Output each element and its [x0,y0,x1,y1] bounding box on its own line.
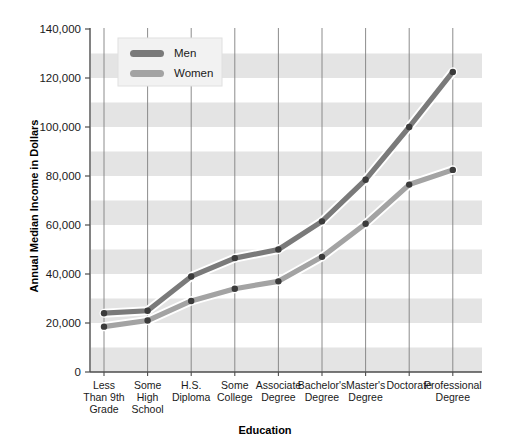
horizontal-band [91,348,482,373]
data-point-men-8 [450,69,456,75]
y-tick-label: 120,000 [39,72,81,84]
y-tick-label: 60,000 [46,219,81,231]
data-point-women-8 [450,167,456,173]
horizontal-band [91,201,482,226]
data-point-women-2 [188,298,194,304]
data-point-men-3 [232,255,238,261]
horizontal-band [91,152,482,177]
legend-swatch-men [130,50,164,57]
data-point-men-4 [275,246,281,252]
y-axis-title: Annual Median Income in Dollars [28,120,40,293]
chart-figure: 020,00040,00060,00080,000100,000120,0001… [0,0,520,442]
data-point-women-5 [319,254,325,260]
line-chart: 020,00040,00060,00080,000100,000120,0001… [0,0,520,442]
legend-swatch-women [130,70,164,77]
data-point-women-0 [101,323,107,329]
legend-label-women: Women [174,67,213,79]
data-point-women-7 [406,181,412,187]
chart-legend: Men Women [118,38,222,86]
data-point-men-1 [144,308,150,314]
x-tick-label-4: AssociateDegree [256,379,302,403]
y-tick-label: 0 [75,366,81,378]
x-tick-label-3: SomeCollege [217,379,253,403]
y-tick-label: 140,000 [39,23,81,35]
y-tick-label: 100,000 [39,121,81,133]
legend-label-men: Men [174,47,196,59]
data-point-men-2 [188,273,194,279]
data-point-women-4 [275,278,281,284]
data-point-women-1 [144,317,150,323]
x-tick-label-5: Bachelor'sDegree [298,379,347,403]
data-point-women-6 [362,221,368,227]
x-tick-label-6: Master'sDegree [346,379,385,403]
x-axis-title: Education [238,424,291,436]
data-point-men-5 [319,218,325,224]
horizontal-band [91,250,482,275]
y-tick-label: 80,000 [46,170,81,182]
data-point-men-0 [101,310,107,316]
data-point-men-6 [362,176,368,182]
data-point-men-7 [406,124,412,130]
data-point-women-3 [232,286,238,292]
y-tick-label: 20,000 [46,317,81,329]
y-tick-label: 40,000 [46,268,81,280]
